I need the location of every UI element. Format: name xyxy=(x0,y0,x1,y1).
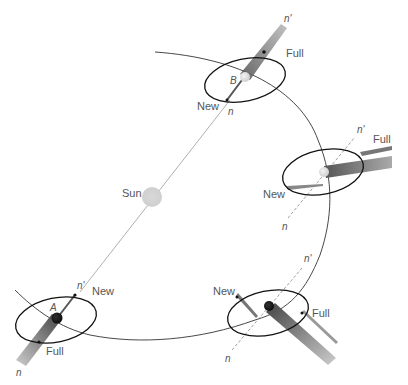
eclipse-seasons-diagram: Sun B Full New n n' Full New n n' xyxy=(0,0,408,385)
position-bottom-right: New Full n n' xyxy=(213,253,338,365)
sun-label: Sun xyxy=(122,187,142,199)
sun: Sun xyxy=(122,187,162,207)
position-label: A xyxy=(49,302,57,313)
node-n-prime: n' xyxy=(357,124,366,135)
node-n: n xyxy=(228,106,234,117)
node-n: n xyxy=(282,221,288,232)
position-right: Full New n n' xyxy=(263,124,392,232)
moon-full xyxy=(37,340,40,343)
moon-shadow-new xyxy=(58,295,75,317)
node-n-prime: n' xyxy=(284,13,293,24)
position-b: B Full New n n' xyxy=(197,13,304,117)
node-n-prime: n' xyxy=(304,253,313,264)
new-label: New xyxy=(92,285,114,297)
moon-shadow-new xyxy=(287,184,323,190)
position-label: B xyxy=(230,75,237,86)
full-label: Full xyxy=(286,47,304,59)
node-n-prime: n' xyxy=(77,280,86,291)
position-a: A New Full n n' xyxy=(11,280,114,378)
earth xyxy=(240,72,250,82)
new-label: New xyxy=(197,100,219,112)
earth xyxy=(52,313,63,324)
node-n: n xyxy=(16,367,22,378)
earth xyxy=(319,167,329,177)
earth xyxy=(264,301,274,311)
moon-full xyxy=(262,50,266,54)
node-n: n xyxy=(225,353,231,364)
earth-shadow xyxy=(324,156,392,178)
moon-full xyxy=(301,312,304,315)
moon-new xyxy=(73,293,76,296)
moon-new xyxy=(236,296,239,299)
moon-shadow-full xyxy=(360,146,392,156)
full-label: Full xyxy=(373,133,391,145)
full-label: Full xyxy=(46,345,64,357)
new-label: New xyxy=(213,285,235,297)
new-label: New xyxy=(263,188,285,200)
full-label: Full xyxy=(312,307,330,319)
moon-new xyxy=(226,99,229,102)
